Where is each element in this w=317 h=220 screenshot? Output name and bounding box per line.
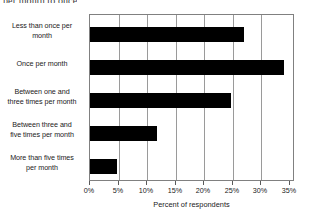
- category-label-line: Once per month: [0, 59, 85, 69]
- bar-row: [90, 93, 293, 108]
- category-label-line: month: [0, 31, 85, 41]
- plot-area: [89, 14, 294, 181]
- category-label-line: per month: [0, 163, 85, 173]
- bar-once-per-month: [90, 60, 284, 75]
- bar-chart: Less than once per month Once per month …: [0, 0, 317, 220]
- bar-row: [90, 159, 293, 174]
- category-label-line: Between three and: [0, 120, 85, 130]
- x-tick: [203, 181, 204, 185]
- category-label-line: Between one and: [0, 87, 85, 97]
- x-tick: [175, 181, 176, 185]
- bar-row: [90, 126, 293, 141]
- x-tick: [89, 181, 90, 185]
- x-tick: [289, 181, 290, 185]
- category-label-line: three times per month: [0, 97, 85, 107]
- bar-between-one-and-three: [90, 93, 231, 108]
- category-label-once-per-month: Once per month: [0, 59, 85, 69]
- bar-row: [90, 60, 293, 75]
- category-label-more-than-five: More than five times per month: [0, 153, 85, 172]
- category-label-line: five times per month: [0, 130, 85, 140]
- x-tick: [232, 181, 233, 185]
- category-label-less-than-once: Less than once per month: [0, 21, 85, 40]
- category-label-line: Less than once per: [0, 21, 85, 31]
- x-tick-label: 35%: [272, 186, 306, 195]
- x-tick: [260, 181, 261, 185]
- category-label-line: More than five times: [0, 153, 85, 163]
- bar-between-three-and-five: [90, 126, 157, 141]
- bar-more-than-five-times: [90, 159, 117, 174]
- category-label-between-three-and-five: Between three and five times per month: [0, 120, 85, 139]
- bar-row: [90, 27, 293, 42]
- x-tick: [118, 181, 119, 185]
- x-tick: [146, 181, 147, 185]
- category-label-between-one-and-three: Between one and three times per month: [0, 87, 85, 106]
- x-axis-title: Percent of respondents: [89, 200, 294, 209]
- bar-less-than-once-per-month: [90, 27, 244, 42]
